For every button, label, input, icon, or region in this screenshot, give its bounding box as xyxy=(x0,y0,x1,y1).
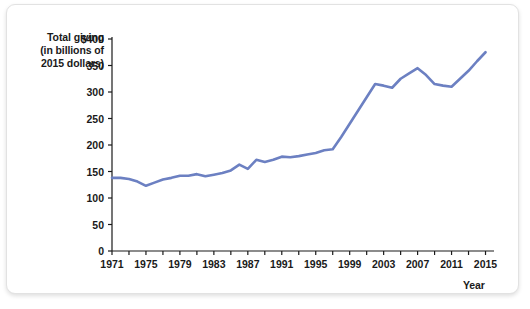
y-axis-tick-label: 250 xyxy=(64,113,104,125)
y-axis-tick-label: 200 xyxy=(64,139,104,151)
chart-series xyxy=(112,52,486,186)
y-axis-tick-label: $400 xyxy=(64,33,104,45)
y-axis-tick-label: 300 xyxy=(64,86,104,98)
data-line-total-giving xyxy=(112,52,486,186)
y-axis-tick-label: 150 xyxy=(64,166,104,178)
y-axis-tick-label: 350 xyxy=(64,60,104,72)
x-axis-title: Year xyxy=(463,279,503,291)
line-chart: Total giving (in billions of 2015 dollar… xyxy=(0,0,530,309)
y-axis-tick-label: 0 xyxy=(64,245,104,257)
x-axis-tick-label: 2015 xyxy=(466,258,506,270)
y-axis-tick-label: 100 xyxy=(64,192,104,204)
chart-axes xyxy=(108,37,494,255)
y-axis-title-line-2: (in billions of xyxy=(4,44,104,57)
y-axis-tick-label: 50 xyxy=(64,219,104,231)
